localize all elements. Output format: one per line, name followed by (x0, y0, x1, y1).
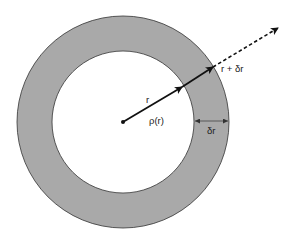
label-outer-radius: r + δr (221, 63, 243, 74)
shell-diagram: r ρ(r) δr r + δr (0, 0, 291, 243)
label-radius: r (146, 94, 149, 105)
label-density: ρ(r) (149, 115, 164, 126)
label-shell-thickness: δr (207, 125, 215, 136)
dashed-extension-arrow (213, 28, 278, 67)
